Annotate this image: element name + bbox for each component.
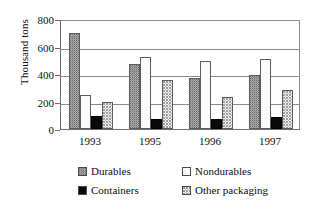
bar-nondurables-1995 <box>140 57 151 129</box>
legend-item-containers: Containers <box>78 185 182 196</box>
bar-containers-1997 <box>271 117 282 129</box>
bar-durables-1996 <box>189 78 200 129</box>
legend-row: Durables Nondurables <box>78 162 302 181</box>
legend-item-durables: Durables <box>78 166 182 177</box>
bars-layer <box>61 21 299 129</box>
x-tick-label-1996: 1996 <box>180 136 240 147</box>
y-tick-label-400: 400 <box>14 70 54 81</box>
bar-containers-1995 <box>151 119 162 129</box>
y-tick-label-0: 0 <box>14 125 54 136</box>
y-tick-label-800: 800 <box>14 15 54 26</box>
y-tick-label-600: 600 <box>14 43 54 54</box>
y-tick-label-200: 200 <box>14 98 54 109</box>
bar-other-packaging-1993 <box>102 102 113 129</box>
legend-item-other-packaging: Other packaging <box>182 185 302 196</box>
bar-other-packaging-1996 <box>222 97 233 129</box>
legend-row: Containers Other packaging <box>78 181 302 200</box>
bar-nondurables-1997 <box>260 59 271 129</box>
x-tick-label-1995: 1995 <box>120 136 180 147</box>
x-tick-label-1993: 1993 <box>60 136 120 147</box>
bar-durables-1995 <box>129 64 140 129</box>
plot-area <box>60 20 300 130</box>
y-tickmark <box>55 130 60 131</box>
chart-legend: Durables Nondurables Containers Other pa… <box>78 162 302 200</box>
bar-nondurables-1993 <box>80 95 91 129</box>
legend-label-other-packaging: Other packaging <box>195 185 268 196</box>
bar-containers-1993 <box>91 116 102 129</box>
bar-containers-1996 <box>211 119 222 129</box>
bar-nondurables-1996 <box>200 61 211 129</box>
legend-swatch-containers-icon <box>78 186 87 195</box>
bar-other-packaging-1995 <box>162 80 173 130</box>
legend-swatch-durables-icon <box>78 167 87 176</box>
bar-durables-1997 <box>249 75 260 129</box>
legend-label-nondurables: Nondurables <box>195 166 251 177</box>
legend-swatch-nondurables-icon <box>182 167 191 176</box>
x-tick-label-1997: 1997 <box>240 136 300 147</box>
legend-item-nondurables: Nondurables <box>182 166 302 177</box>
legend-label-durables: Durables <box>91 166 131 177</box>
bar-other-packaging-1997 <box>282 90 293 129</box>
legend-swatch-other-packaging-icon <box>182 186 191 195</box>
bar-durables-1993 <box>69 33 80 129</box>
legend-label-containers: Containers <box>91 185 139 196</box>
bar-chart-figure: Thousand tons 800 600 400 200 0 1993 199… <box>0 0 312 205</box>
